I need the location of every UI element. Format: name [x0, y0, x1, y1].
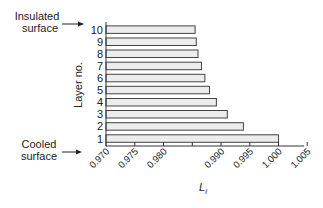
x-tick-label: 1.005: [288, 146, 313, 171]
bar-layer-2: [106, 123, 243, 131]
annotation-cooled-line1: Cooled: [22, 138, 57, 150]
bar-layer-8: [106, 50, 198, 58]
bar-layer-1: [106, 135, 279, 143]
bar-layer-6: [106, 74, 205, 82]
layer-chart: 12345678910 0.9700.9750.9800.9900.9951.0…: [0, 0, 323, 208]
x-tick-label: 0.990: [202, 146, 227, 171]
layer-label-2: 2: [97, 120, 103, 132]
x-tick-label: 0.975: [116, 146, 141, 171]
layer-label-7: 7: [97, 60, 103, 72]
category-labels: 12345678910: [91, 24, 103, 145]
bar-layer-4: [106, 99, 216, 107]
x-tick-label: 0.995: [231, 146, 256, 171]
arrowhead-cooled-icon: [76, 150, 82, 155]
y-axis-label: Layer no.: [72, 62, 84, 108]
bar-layer-10: [106, 26, 195, 34]
arrowhead-insulated-icon: [78, 22, 84, 27]
bar-layer-5: [106, 86, 210, 94]
x-axis-label-sub: i: [205, 187, 207, 196]
layer-label-6: 6: [97, 72, 103, 84]
layer-label-8: 8: [97, 48, 103, 60]
x-tick-label: 0.980: [144, 146, 169, 171]
layer-label-3: 3: [97, 108, 103, 120]
layer-label-4: 4: [97, 96, 103, 108]
x-tick-label: 1.000: [259, 146, 284, 171]
layer-label-5: 5: [97, 84, 103, 96]
bar-layer-9: [106, 38, 196, 46]
layer-label-9: 9: [97, 36, 103, 48]
bar-layer-3: [106, 111, 227, 119]
annotation-cooled: Cooled surface: [21, 138, 82, 162]
x-axis-label: Li: [199, 181, 207, 196]
annotation-cooled-line2: surface: [21, 150, 57, 162]
layer-label-1: 1: [97, 133, 103, 145]
layer-label-10: 10: [91, 24, 103, 36]
annotation-insulated-line1: Insulated: [15, 10, 60, 22]
annotation-insulated: Insulated surface: [15, 10, 84, 34]
x-tick-label: 0.970: [87, 146, 112, 171]
annotation-insulated-line2: surface: [22, 22, 58, 34]
bar-layer-7: [106, 62, 202, 69]
bars-group: [106, 26, 279, 142]
